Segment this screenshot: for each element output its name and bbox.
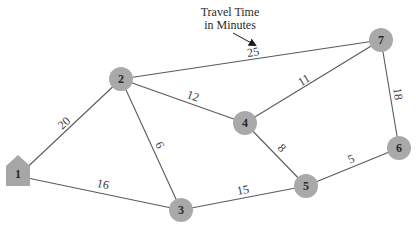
- weight-2-7: 25: [246, 44, 260, 60]
- node-2: 2: [109, 67, 133, 91]
- node-5: 5: [294, 174, 318, 198]
- annotation-arrow: [233, 33, 255, 45]
- annotation-line-2: in Minutes: [178, 19, 282, 32]
- node-3: 3: [169, 198, 193, 222]
- edge-4-7: [245, 40, 381, 123]
- node-label-3: 3: [178, 203, 184, 217]
- weight-3-5: 15: [236, 182, 250, 198]
- network-diagram: 20 16 6 12 25 15 8 11 5 18 1 2 3 4: [0, 0, 416, 225]
- edge-2-4: [121, 79, 245, 123]
- edge-1-2: [18, 79, 121, 176]
- graph-svg: 20 16 6 12 25 15 8 11 5 18 1 2 3 4: [0, 0, 416, 225]
- travel-time-annotation: Travel Time in Minutes: [178, 6, 282, 32]
- weight-1-3: 16: [96, 176, 111, 192]
- node-label-6: 6: [396, 141, 402, 155]
- weight-2-3: 6: [152, 139, 167, 150]
- node-label-1: 1: [15, 167, 21, 181]
- node-label-4: 4: [242, 116, 248, 130]
- node-6: 6: [387, 136, 411, 160]
- weight-4-7: 11: [295, 71, 312, 89]
- edge-2-3: [121, 79, 181, 210]
- weight-5-6: 5: [346, 151, 357, 166]
- node-label-5: 5: [303, 179, 309, 193]
- edge-5-6: [306, 148, 399, 186]
- weight-6-7: 18: [390, 87, 406, 101]
- node-7: 7: [369, 28, 393, 52]
- node-4: 4: [233, 111, 257, 135]
- node-1: 1: [6, 155, 30, 186]
- node-label-7: 7: [378, 33, 384, 47]
- edge-4-5: [245, 123, 306, 186]
- weight-4-5: 8: [275, 141, 289, 155]
- node-label-2: 2: [118, 72, 124, 86]
- weight-1-2: 20: [55, 114, 73, 132]
